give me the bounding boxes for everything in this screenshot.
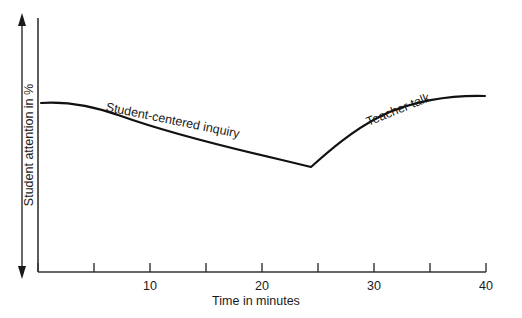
x-tick-label-10: 10 (134, 276, 166, 294)
x-tick-label-30: 30 (358, 276, 390, 294)
y-axis-title: Student attention in % (19, 60, 37, 230)
attention-curve-chart: Student attention in % 10 20 30 40 Time … (0, 0, 522, 318)
chart-canvas (0, 0, 522, 318)
x-axis-ticks (38, 263, 486, 272)
y-axis-title-text: Student attention in % (22, 84, 36, 206)
x-axis-title: Time in minutes (186, 291, 326, 309)
x-tick-label-40: 40 (470, 276, 502, 294)
x-axis-title-text: Time in minutes (212, 294, 300, 308)
